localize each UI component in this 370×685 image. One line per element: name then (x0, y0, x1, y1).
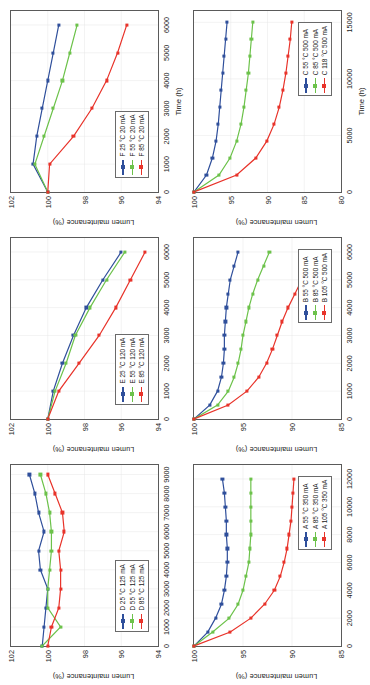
y-tick-label: 90 (288, 650, 297, 658)
data-point-marker (57, 390, 60, 393)
legend-item[interactable]: C 55 °C 500 mA (301, 26, 310, 93)
legend[interactable]: B 55 °C 500 mAB 85 °C 500 mAB 105 °C 500… (298, 249, 332, 323)
data-point-marker (206, 630, 209, 633)
legend-marker-icon (321, 305, 328, 320)
data-point-marker (223, 334, 226, 337)
data-point-marker (268, 250, 271, 253)
data-point-marker (249, 519, 252, 522)
y-tick-label: 85 (300, 196, 309, 204)
data-point-marker (37, 511, 40, 514)
legend-marker-icon (302, 532, 309, 547)
legend-item[interactable]: F 25 °C 20 mA (118, 115, 127, 175)
legend-marker-icon (302, 78, 309, 93)
data-point-marker (220, 376, 223, 379)
data-point-marker (248, 547, 251, 550)
legend-item[interactable]: E 85 °C 120 mA (137, 338, 146, 402)
data-point-marker (72, 135, 75, 138)
x-tick-label: 3000 (162, 100, 171, 116)
legend[interactable]: F 25 °C 20 mAF 55 °C 20 mAF 85 °C 20 mA (115, 111, 149, 178)
x-tick-label: 1000 (162, 383, 171, 399)
x-tick-label: 3000 (162, 327, 171, 343)
legend[interactable]: E 25 °C 120 mAE 55 °C 120 mAE 85 °C 120 … (115, 334, 149, 405)
legend-item[interactable]: F 85 °C 20 mA (137, 115, 146, 175)
data-point-marker (249, 617, 252, 620)
data-point-marker (39, 473, 42, 476)
x-tick-label: 6000 (162, 524, 171, 540)
legend-marker-icon (129, 387, 136, 402)
data-point-marker (46, 587, 49, 590)
legend-item[interactable]: F 55 °C 20 mA (128, 115, 137, 175)
legend-marker-icon (138, 614, 145, 629)
data-point-marker (42, 530, 45, 533)
legend-item[interactable]: A 105 °C 350 mA (320, 480, 329, 547)
data-point-marker (90, 107, 93, 110)
data-point-marker (251, 292, 254, 295)
legend-marker-icon (129, 160, 136, 175)
legend-item[interactable]: D 85 °C 125 mA (137, 564, 146, 628)
x-tick-label: 2000 (345, 610, 354, 626)
x-tick-label: 5000 (162, 543, 171, 559)
data-point-marker (224, 38, 227, 41)
data-point-marker (46, 473, 49, 476)
data-point-marker (35, 135, 38, 138)
data-point-marker (224, 505, 227, 508)
data-point-marker (42, 135, 45, 138)
legend-marker-icon (321, 532, 328, 547)
legend-item[interactable]: E 55 °C 120 mA (128, 338, 137, 402)
data-point-marker (228, 617, 231, 620)
legend-item[interactable]: B 85 °C 500 mA (311, 253, 320, 320)
y-tick-label: 90 (288, 423, 297, 431)
chart-panel-b[interactable]: Lumen maintenance (%)8590951000100020003… (185, 231, 368, 456)
x-tick-label: 2000 (345, 355, 354, 371)
chart-panel-d[interactable]: Lumen maintenance (%)9496981001020100020… (2, 458, 185, 683)
data-point-marker (247, 306, 250, 309)
legend-label: B 55 °C 500 mA (301, 256, 310, 302)
legend[interactable]: C 55 °C 500 mAC 85 °C 500 mAC 118 °C 500… (298, 22, 332, 96)
legend-marker-icon (119, 614, 126, 629)
x-tick-label: 4000 (162, 562, 171, 578)
legend-item[interactable]: B 55 °C 500 mA (301, 253, 310, 320)
data-point-marker (218, 106, 221, 109)
legend-marker-icon (321, 78, 328, 93)
data-point-marker (227, 390, 230, 393)
y-tick-label: 94 (154, 650, 163, 658)
data-point-marker (57, 23, 60, 26)
y-tick-label: 80 (337, 196, 346, 204)
legend[interactable]: A 55 °C 350 mAA 85 °C 350 mAA 105 °C 350… (298, 476, 332, 550)
chart-panel-e[interactable]: Lumen maintenance (%)9496981001020100020… (2, 231, 185, 456)
data-point-marker (286, 547, 289, 550)
data-point-marker (256, 278, 259, 281)
series-line (29, 475, 47, 646)
data-point-marker (48, 163, 51, 166)
legend-item[interactable]: E 25 °C 120 mA (118, 338, 127, 402)
y-tick-label: 90 (263, 196, 272, 204)
plot-area: 8590951000100020003000400050006000B 55 °… (193, 237, 342, 420)
data-point-marker (292, 477, 295, 480)
y-tick-label: 102 (7, 196, 16, 208)
data-point-marker (281, 89, 284, 92)
data-point-marker (233, 264, 236, 267)
legend-item[interactable]: A 55 °C 350 mA (301, 480, 310, 547)
y-axis-label: Lumen maintenance (%) (2, 670, 185, 682)
legend-item[interactable]: D 55 °C 125 mA (128, 564, 137, 628)
data-point-marker (225, 21, 228, 24)
data-point-marker (249, 505, 252, 508)
legend-item[interactable]: A 85 °C 350 mA (311, 480, 320, 547)
legend-item[interactable]: C 118 °C 500 mA (320, 26, 329, 93)
data-point-marker (48, 511, 51, 514)
chart-panel-f[interactable]: Lumen maintenance (%)9496981001020100020… (2, 4, 185, 229)
x-tick-label: 1000 (345, 383, 354, 399)
y-tick-label: 98 (80, 196, 89, 204)
legend-item[interactable]: D 25 °C 125 mA (118, 564, 127, 628)
legend-item[interactable]: C 85 °C 500 mA (311, 26, 320, 93)
x-tick-label: 0 (345, 644, 354, 648)
x-tick-label: 6000 (345, 554, 354, 570)
y-tick-label: 94 (154, 196, 163, 204)
legend[interactable]: D 25 °C 125 mAD 55 °C 125 mAD 85 °C 125 … (115, 560, 149, 631)
legend-label: E 85 °C 120 mA (137, 338, 146, 384)
chart-panel-c[interactable]: Lumen maintenance (%)8085909510005000100… (185, 4, 368, 229)
x-tick-label: 6000 (162, 17, 171, 33)
chart-panel-a[interactable]: Lumen maintenance (%)8590951000200040006… (185, 458, 368, 683)
legend-item[interactable]: B 105 °C 500 mA (320, 253, 329, 320)
data-point-marker (205, 173, 208, 176)
